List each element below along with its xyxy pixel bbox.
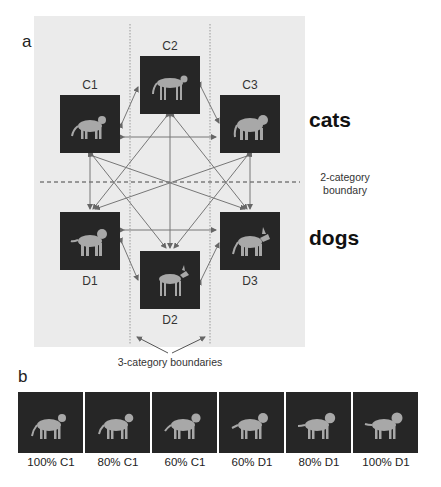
morph-label-3: 60% C1 — [152, 456, 218, 468]
morph-tile-1 — [18, 392, 83, 453]
morph-tile-5 — [286, 392, 351, 453]
shepherd-dog-icon — [220, 212, 280, 270]
cheetah-icon — [140, 56, 200, 114]
cat-icon — [18, 392, 83, 453]
stimulus-d1 — [60, 212, 120, 270]
dog-icon — [60, 212, 120, 270]
morph-tile-2 — [85, 392, 150, 453]
three-category-boundaries-label: 3-category boundaries — [100, 356, 240, 369]
category-label-cats: cats — [309, 108, 351, 132]
cat-icon — [60, 95, 120, 153]
dog-icon — [286, 392, 351, 453]
two-category-boundary-line1: 2-category — [305, 171, 385, 184]
morph-label-4: 60% D1 — [219, 456, 285, 468]
two-category-boundary-label: 2-category boundary — [305, 171, 385, 197]
doberman-icon — [140, 251, 200, 309]
stimulus-label-d1: D1 — [60, 274, 120, 288]
stimulus-label-c1: C1 — [60, 78, 120, 92]
morph-label-5: 80% D1 — [286, 456, 352, 468]
cat-dog-morph-icon — [152, 392, 217, 453]
morph-tile-3 — [152, 392, 217, 453]
stimulus-c1 — [60, 95, 120, 153]
stimulus-c3 — [220, 95, 280, 153]
stimulus-label-c2: C2 — [140, 39, 200, 53]
dog-icon — [353, 392, 418, 453]
morph-tile-4 — [219, 392, 284, 453]
cat-dog-morph-icon — [219, 392, 284, 453]
morph-label-2: 80% C1 — [85, 456, 151, 468]
panel-b-letter: b — [18, 367, 27, 387]
two-category-boundary-line2: boundary — [305, 184, 385, 197]
morph-label-6: 100% D1 — [353, 456, 419, 468]
tiger-icon — [220, 95, 280, 153]
stimulus-d3 — [220, 212, 280, 270]
morph-label-1: 100% C1 — [18, 456, 84, 468]
morph-tile-6 — [353, 392, 418, 453]
stimulus-c2 — [140, 56, 200, 114]
stimulus-label-d3: D3 — [220, 274, 280, 288]
stimulus-label-c3: C3 — [220, 78, 280, 92]
stimulus-d2 — [140, 251, 200, 309]
cat-dog-morph-icon — [85, 392, 150, 453]
category-label-dogs: dogs — [309, 226, 359, 250]
stimulus-label-d2: D2 — [140, 313, 200, 327]
